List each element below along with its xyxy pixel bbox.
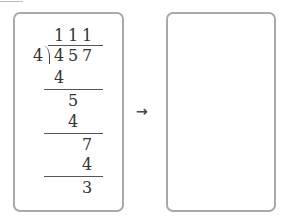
remainder-value: 7 <box>82 137 92 153</box>
subtract-value: 4 <box>82 157 92 173</box>
subtraction-line <box>44 176 103 177</box>
header-underline <box>0 1 23 2</box>
subtraction-line <box>44 133 103 134</box>
dividend-digit: 5 <box>68 48 78 64</box>
quotient-digit: 1 <box>54 28 64 44</box>
subtraction-line <box>44 89 103 90</box>
dividend-digit: 4 <box>54 48 64 64</box>
subtract-value: 4 <box>68 114 78 130</box>
subtract-value: 4 <box>54 70 64 86</box>
dividend-digit: 7 <box>82 48 92 64</box>
remainder-value: 5 <box>68 93 78 109</box>
quotient-digit: 1 <box>82 28 92 44</box>
answer-box[interactable] <box>166 12 276 212</box>
arrow-right-icon: → <box>136 103 148 119</box>
quotient-digit: 1 <box>68 28 78 44</box>
divisor: 4 <box>33 48 43 64</box>
final-remainder: 3 <box>82 180 92 196</box>
